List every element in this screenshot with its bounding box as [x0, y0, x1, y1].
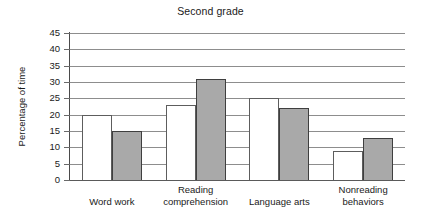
x-axis-category-label: Nonreadingbehaviors [308, 184, 418, 207]
y-axis-tick-label: 40 [38, 44, 60, 54]
bar-white-2 [249, 98, 279, 180]
bar-chart: Second grade Percentage of time 45403530… [0, 0, 421, 221]
bar-gray-3 [363, 138, 393, 180]
bar-gray-1 [196, 79, 226, 180]
y-axis-tick-label: 0 [38, 175, 60, 185]
plot-area [70, 33, 405, 180]
bar-white-1 [166, 105, 196, 180]
x-axis-category-label-line: Reading [141, 184, 251, 196]
gridline [70, 115, 405, 116]
y-axis-tick-label: 45 [38, 28, 60, 38]
y-axis-tick-label: 35 [38, 61, 60, 71]
bar-white-0 [82, 115, 112, 180]
gridline [70, 82, 405, 83]
y-axis-tick-label: 20 [38, 110, 60, 120]
gridline [70, 98, 405, 99]
bar-white-3 [333, 151, 363, 180]
bar-gray-2 [279, 108, 309, 180]
y-axis-tick-label: 10 [38, 142, 60, 152]
x-axis-category-label-line: behaviors [308, 196, 418, 208]
y-axis-tick-label: 25 [38, 93, 60, 103]
gridline [70, 49, 405, 50]
y-axis-tick-label: 30 [38, 77, 60, 87]
bar-gray-0 [112, 131, 142, 180]
y-axis-tick-label: 5 [38, 159, 60, 169]
x-axis-category-label-line: Nonreading [308, 184, 418, 196]
gridline [70, 33, 405, 34]
y-axis-tick-label: 15 [38, 126, 60, 136]
y-axis-label: Percentage of time [16, 42, 27, 172]
chart-title: Second grade [0, 5, 421, 17]
gridline [70, 66, 405, 67]
axis-baseline [70, 180, 405, 181]
